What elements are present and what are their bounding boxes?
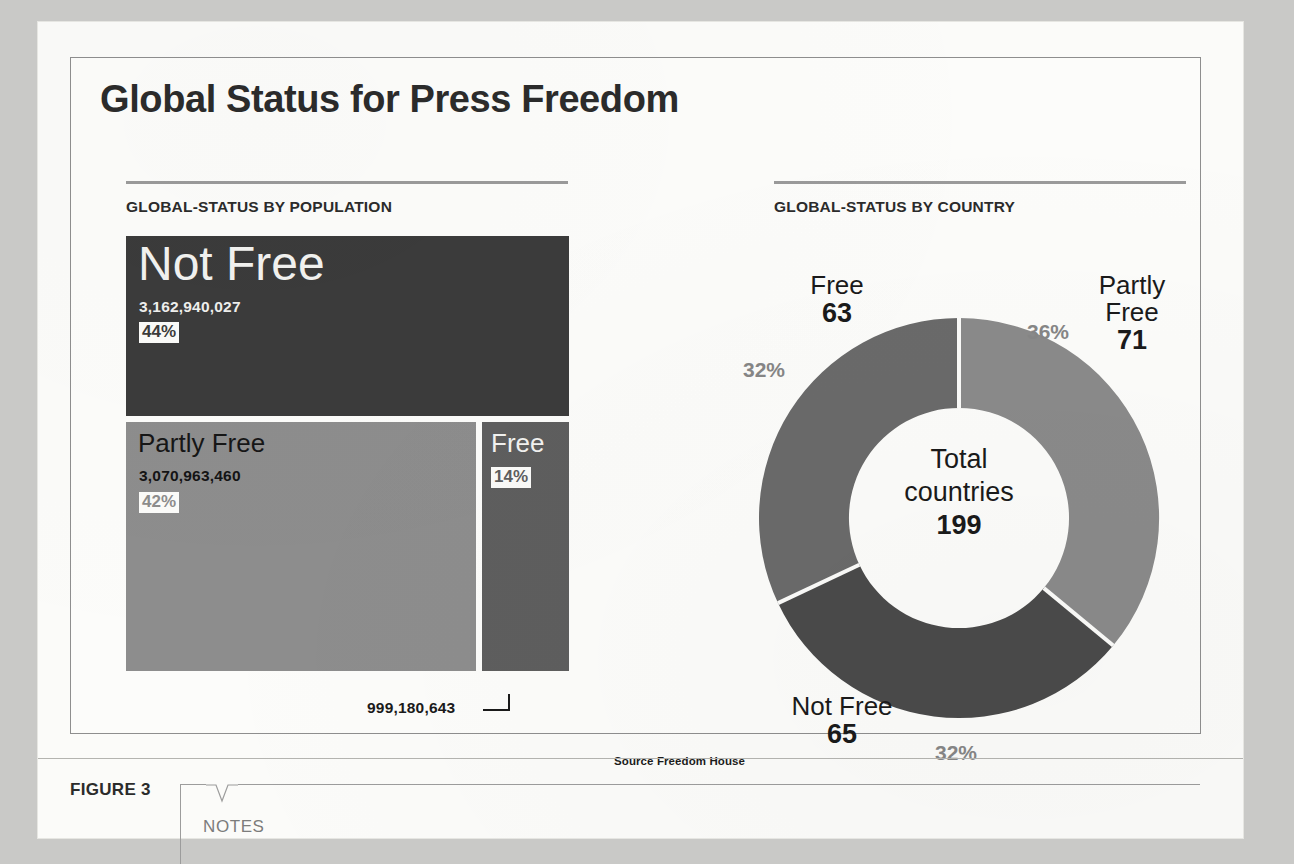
treemap-partly-free-value: 3,070,963,460 <box>139 467 241 485</box>
donut-percent-not-free: 32% <box>935 741 977 765</box>
donut-label-free-count: 63 <box>791 299 883 327</box>
donut-label-partly-free-count: 71 <box>1084 326 1180 354</box>
donut-label-not-free: Not Free 65 <box>781 693 903 748</box>
divider-left <box>126 181 568 184</box>
heading-by-population: GLOBAL-STATUS BY POPULATION <box>126 198 392 216</box>
treemap-partly-free-label: Partly Free <box>138 430 265 456</box>
treemap-tile-free: Free 14% <box>482 422 569 671</box>
treemap-not-free-value: 3,162,940,027 <box>139 298 241 316</box>
donut-label-free: Free 63 <box>791 272 883 327</box>
treemap-free-percent: 14% <box>491 467 531 488</box>
treemap-not-free-label: Not Free <box>138 240 325 288</box>
donut-label-not-free-count: 65 <box>781 720 903 748</box>
donut-center-total: Total countries 199 <box>850 443 1068 542</box>
caption-divider <box>38 758 1243 759</box>
treemap-tile-not-free: Not Free 3,162,940,027 44% <box>126 236 569 416</box>
notes-box[interactable]: NOTES <box>180 784 1200 864</box>
heading-by-country: GLOBAL-STATUS BY COUNTRY <box>774 198 1015 216</box>
callout-leader-line <box>483 694 510 711</box>
figure-panel: Global Status for Press Freedom GLOBAL-S… <box>70 57 1201 734</box>
country-donut-chart: Total countries 199 Free 63 32% Partly F… <box>719 228 1199 728</box>
donut-center-value: 199 <box>850 509 1068 542</box>
treemap-free-callout-value: 999,180,643 <box>367 699 455 717</box>
donut-percent-free: 32% <box>743 358 785 382</box>
donut-percent-partly-free: 36% <box>1027 320 1069 344</box>
treemap-tile-partly-free: Partly Free 3,070,963,460 42% <box>126 422 476 671</box>
donut-label-not-free-name: Not Free <box>781 693 903 720</box>
source-note: Source Freedom House <box>614 755 745 767</box>
notes-label: NOTES <box>203 817 265 837</box>
donut-center-line2: countries <box>850 476 1068 509</box>
treemap-free-label: Free <box>491 430 544 456</box>
donut-label-partly-free-name1: Partly <box>1084 272 1180 299</box>
donut-label-partly-free: Partly Free 71 <box>1084 272 1180 354</box>
donut-label-free-name: Free <box>791 272 883 299</box>
divider-right <box>774 181 1186 184</box>
notes-notch-icon <box>206 784 238 803</box>
figure-caption: FIGURE 3 <box>70 780 151 800</box>
paper-page: Global Status for Press Freedom GLOBAL-S… <box>38 22 1243 838</box>
donut-center-line1: Total <box>850 443 1068 476</box>
population-treemap: Not Free 3,162,940,027 44% Partly Free 3… <box>126 236 569 671</box>
page-title: Global Status for Press Freedom <box>100 78 679 121</box>
treemap-not-free-percent: 44% <box>139 322 179 343</box>
donut-label-partly-free-name2: Free <box>1084 299 1180 326</box>
treemap-partly-free-percent: 42% <box>139 492 179 513</box>
